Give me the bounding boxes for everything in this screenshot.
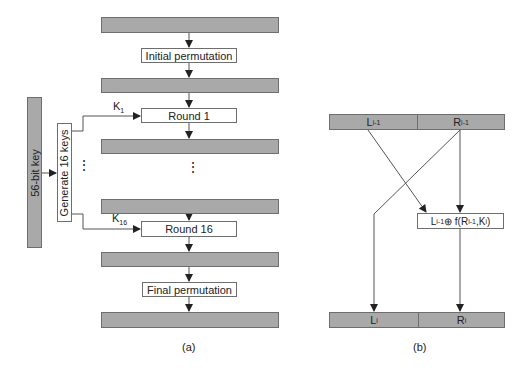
feistel-function-box: Li-1 ⊕ f(Ri-1,Ki ) [417,213,504,229]
key-label-k16: K16 [112,212,127,226]
data-block-output [101,312,279,328]
caption-b: (b) [413,341,426,353]
right-half-output: Ri [419,313,504,327]
data-block-input [101,17,279,33]
key-label-k1: K1 [113,100,124,114]
generate-keys-box: Generate 16 keys [57,123,72,222]
left-half-output: Li [330,313,419,327]
caption-a: (a) [182,341,195,353]
ellipsis-rounds: ⋮ [186,162,200,172]
ellipsis-keys: ⋮ [77,160,91,170]
initial-permutation-box: Initial permutation [141,48,237,63]
data-block-after-round-1 [101,139,279,154]
right-half-input: Ri-1 [418,115,504,129]
generate-keys-label: Generate 16 keys [59,129,71,216]
left-half-input: Li-1 [330,115,418,129]
round-1-box: Round 1 [141,108,237,123]
data-block-after-round-16 [101,252,279,267]
round-16-box: Round 16 [141,221,237,237]
round-output-block: Li Ri [329,312,505,328]
data-block-before-round-16 [101,199,279,214]
round-input-block: Li-1 Ri-1 [329,114,505,130]
data-block-after-ip [101,78,279,93]
key-bar-label: 56-bit key [29,149,41,197]
final-permutation-box: Final permutation [142,282,237,297]
key-bar: 56-bit key [27,97,42,248]
